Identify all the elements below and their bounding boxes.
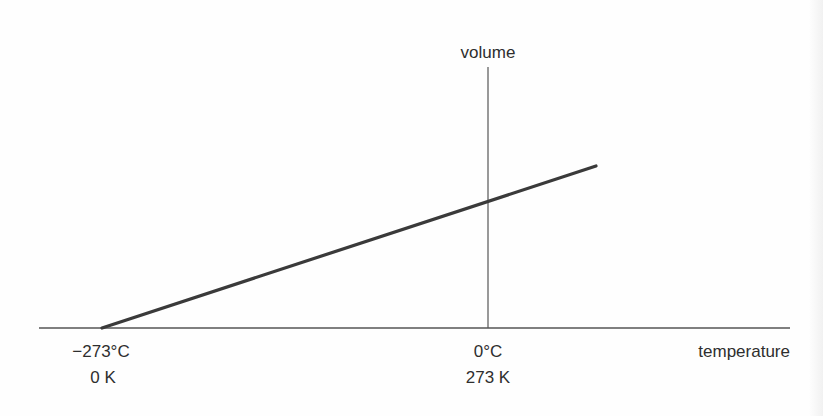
- tick-label-freeze-celsius: 0°C: [474, 342, 503, 362]
- tick-label-abs-zero-celsius: −273°C: [72, 342, 129, 362]
- data-line: [102, 166, 596, 328]
- y-axis-label: volume: [461, 43, 516, 63]
- chart-figure: volume −273°C 0 K 0°C 273 K temperature: [0, 0, 823, 416]
- page-edge-shadow: [809, 0, 823, 416]
- x-axis-label: temperature: [698, 342, 790, 362]
- tick-label-abs-zero-kelvin: 0 K: [90, 368, 116, 388]
- tick-label-freeze-kelvin: 273 K: [466, 368, 510, 388]
